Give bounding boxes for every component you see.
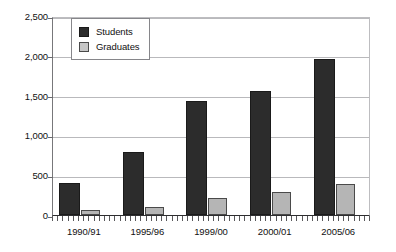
bar-graduates [336,184,355,215]
chart-legend: Students Graduates [71,18,150,60]
x-axis-tick-mark [208,216,209,221]
x-axis-tick-mark [270,216,271,221]
x-axis-tick-mark [120,216,121,221]
x-axis-tick-mark [333,216,334,221]
x-axis-tick-mark [302,216,303,221]
x-axis-tick-mark [291,216,292,221]
x-axis-tick-mark [239,216,240,221]
x-axis-tick-mark [187,216,188,221]
legend-item-graduates: Graduates [79,39,139,54]
legend-swatch-students-icon [79,27,89,37]
x-axis-tick-mark [78,216,79,221]
x-axis-tick-mark [250,216,251,221]
x-axis-tick-mark [244,216,245,221]
bar-students [250,91,271,215]
x-axis-tick-mark [88,216,89,221]
bar-graduates [272,192,291,215]
bar-graduates [81,210,100,215]
x-axis-tick-mark [322,216,323,221]
x-axis-tick-mark [62,216,63,221]
x-axis-tick-mark [151,216,152,221]
x-axis-tick-mark [73,216,74,221]
bar-students [186,101,207,215]
y-axis-tick-label: 2,000 [4,52,48,62]
x-axis-tick-mark [296,216,297,221]
bar-group [307,18,371,215]
x-axis-tick-mark [218,216,219,221]
x-axis-tick-mark [328,216,329,221]
bar-group [180,18,244,215]
x-axis-tick-mark [140,216,141,221]
x-axis-tick-mark [203,216,204,221]
bar-students [59,183,80,215]
x-axis-tick-mark [161,216,162,221]
x-axis-tick-mark [307,216,308,221]
x-axis-tick-mark [364,216,365,221]
x-axis-tick-mark [276,216,277,221]
bar-chart: 05001,0001,5002,0002,500 1990/911995/961… [0,0,396,252]
x-axis-tick-mark [109,216,110,221]
x-axis-tick-label: 2005/06 [296,226,380,237]
legend-swatch-graduates-icon [79,42,89,52]
x-axis-tick-mark [312,216,313,221]
x-axis-tick-mark [156,216,157,221]
y-axis-tick-label: 500 [4,171,48,181]
x-axis-tick-mark [135,216,136,221]
x-axis-tick-mark [229,216,230,221]
x-axis-tick-mark [213,216,214,221]
y-axis-tick-label: 1,000 [4,131,48,141]
x-axis-tick-mark [146,216,147,221]
x-axis-tick-mark [348,216,349,221]
x-axis-tick-mark [198,216,199,221]
bar-group [244,18,308,215]
x-axis-tick-mark [104,216,105,221]
legend-item-students: Students [79,24,139,39]
x-axis-tick-mark [192,216,193,221]
bar-students [314,59,335,215]
x-axis-tick-mark [57,216,58,221]
y-axis-tick-label: 2,500 [4,12,48,22]
bar-graduates [145,207,164,215]
x-axis: 1990/911995/961999/002000/012005/06 [52,226,370,242]
x-axis-tick-mark [52,216,53,221]
y-axis: 05001,0001,5002,0002,500 [0,0,48,252]
x-axis-tick-mark [317,216,318,221]
y-axis-tick-label: 0 [4,211,48,221]
x-axis-tick-mark [265,216,266,221]
x-axis-tick-mark [343,216,344,221]
x-axis-tick-mark [83,216,84,221]
legend-label-students: Students [96,26,133,37]
x-axis-tick-mark [359,216,360,221]
x-axis-tick-mark [114,216,115,221]
x-axis-tick-mark [224,216,225,221]
bar-students [123,152,144,215]
x-axis-tick-mark [166,216,167,221]
x-axis-tick-mark [182,216,183,221]
x-axis-tick-mark [94,216,95,221]
x-axis-tick-mark [130,216,131,221]
x-axis-tick-marks [52,216,370,222]
x-axis-tick-mark [255,216,256,221]
x-axis-tick-mark [338,216,339,221]
x-axis-tick-mark [354,216,355,221]
x-axis-tick-mark [260,216,261,221]
x-axis-tick-mark [125,216,126,221]
legend-label-graduates: Graduates [96,41,139,52]
bar-graduates [208,198,227,215]
x-axis-tick-mark [369,216,370,221]
y-axis-tick-label: 1,500 [4,92,48,102]
x-axis-tick-mark [68,216,69,221]
x-axis-tick-mark [286,216,287,221]
x-axis-tick-mark [99,216,100,221]
x-axis-tick-mark [177,216,178,221]
x-axis-tick-mark [172,216,173,221]
x-axis-tick-mark [281,216,282,221]
x-axis-tick-mark [234,216,235,221]
